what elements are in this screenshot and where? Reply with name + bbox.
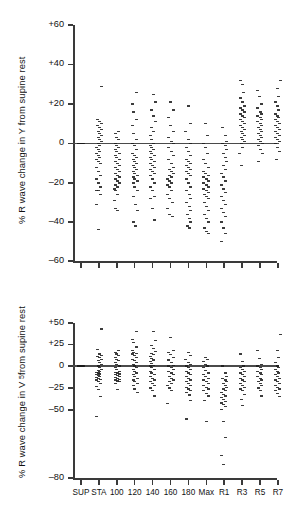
x-axis-line xyxy=(73,478,277,480)
data-point xyxy=(185,147,188,148)
data-point xyxy=(225,376,228,377)
data-point xyxy=(278,396,281,397)
data-point xyxy=(189,155,192,156)
data-point xyxy=(224,157,227,158)
data-point xyxy=(188,218,191,219)
data-point xyxy=(136,190,139,191)
data-point xyxy=(257,161,260,162)
y-axis-tick xyxy=(68,221,73,223)
y-axis-tick xyxy=(68,182,73,184)
data-point xyxy=(278,383,281,384)
data-point xyxy=(243,135,246,136)
data-point xyxy=(187,151,190,152)
data-point xyxy=(189,355,192,356)
data-point xyxy=(260,374,263,375)
x-axis-tick xyxy=(170,480,172,485)
data-point xyxy=(260,131,263,132)
data-point xyxy=(189,221,192,222)
data-point xyxy=(95,386,98,387)
data-point xyxy=(99,163,102,164)
data-point xyxy=(260,119,263,120)
data-point xyxy=(135,149,138,150)
data-point xyxy=(260,113,263,114)
data-point xyxy=(152,131,155,132)
data-point xyxy=(222,212,225,213)
data-point xyxy=(118,165,121,166)
panel-top-y-lead: % R wave change in Y from supine rest +6… xyxy=(0,0,295,268)
y-axis-tick-label: +25 xyxy=(25,338,64,348)
data-point xyxy=(149,175,152,176)
data-point xyxy=(153,219,156,220)
data-point xyxy=(167,117,170,118)
zero-reference-line xyxy=(73,143,279,144)
data-point xyxy=(278,141,281,142)
data-point xyxy=(97,229,100,230)
data-point xyxy=(135,92,138,93)
data-point xyxy=(100,364,103,365)
data-point xyxy=(117,350,120,351)
data-point xyxy=(153,369,156,370)
data-point xyxy=(189,379,192,380)
x-axis-tick xyxy=(259,480,261,485)
x-axis-tick xyxy=(277,480,279,485)
y-axis-tick xyxy=(68,477,73,479)
data-point xyxy=(172,357,175,358)
data-point xyxy=(276,147,279,148)
data-point xyxy=(239,97,242,98)
data-point xyxy=(207,167,210,168)
y-axis-tick-label: –50 xyxy=(25,404,64,414)
data-point xyxy=(153,379,156,380)
data-point xyxy=(276,350,279,351)
data-point xyxy=(172,350,175,351)
data-point xyxy=(274,390,277,391)
data-point xyxy=(170,383,173,384)
data-point xyxy=(136,392,139,393)
data-point xyxy=(172,109,175,110)
y-axis-tick xyxy=(68,260,73,262)
data-point xyxy=(118,365,121,366)
y-axis-label-bottom-prefix: % R wave change in V xyxy=(16,382,27,478)
data-point xyxy=(278,129,281,130)
data-point xyxy=(220,409,223,410)
data-point xyxy=(152,365,155,366)
data-point xyxy=(224,372,227,373)
data-point xyxy=(259,149,262,150)
data-point xyxy=(260,137,263,138)
data-point xyxy=(172,173,175,174)
data-point xyxy=(172,143,175,144)
data-point xyxy=(258,358,261,359)
data-point xyxy=(204,147,207,148)
data-point xyxy=(116,194,119,195)
data-point xyxy=(207,378,210,379)
data-point xyxy=(135,357,138,358)
data-point xyxy=(278,378,281,379)
data-point xyxy=(202,361,205,362)
data-point xyxy=(97,182,100,183)
data-point xyxy=(116,210,119,211)
data-point xyxy=(113,200,116,201)
data-point xyxy=(203,227,206,228)
data-point xyxy=(204,123,207,124)
data-point xyxy=(99,194,102,195)
data-point xyxy=(117,139,120,140)
data-point xyxy=(167,159,170,160)
data-point xyxy=(224,233,227,234)
data-point xyxy=(98,145,101,146)
data-point xyxy=(188,227,191,228)
data-point xyxy=(242,92,245,93)
data-point xyxy=(189,364,192,365)
data-point xyxy=(224,169,227,170)
data-point xyxy=(167,359,170,360)
data-point xyxy=(189,186,192,187)
data-point xyxy=(132,221,135,222)
data-point xyxy=(135,362,138,363)
data-point xyxy=(169,125,172,126)
x-axis-tick xyxy=(223,480,225,485)
data-point xyxy=(166,385,169,386)
data-point xyxy=(240,143,243,144)
data-point xyxy=(100,135,103,136)
data-point xyxy=(220,455,223,456)
data-point xyxy=(170,176,173,177)
data-point xyxy=(241,84,244,85)
x-axis-line xyxy=(73,261,277,263)
